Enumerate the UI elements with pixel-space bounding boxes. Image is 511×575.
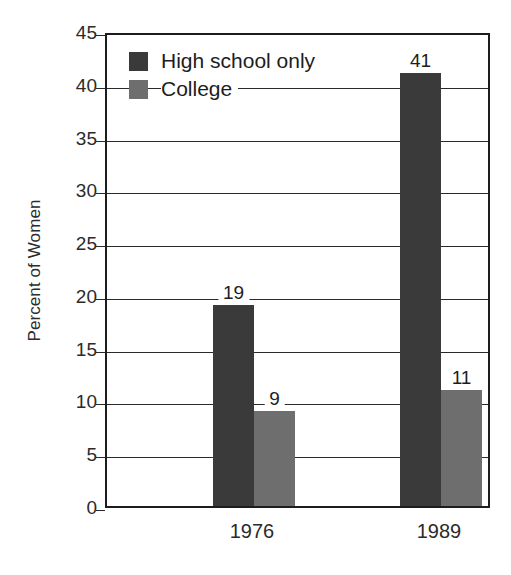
bar-value-label: 9 bbox=[264, 389, 285, 409]
bars-layer: 1994111 bbox=[107, 35, 488, 506]
chart-legend: High school onlyCollege bbox=[129, 47, 321, 103]
y-axis-tick-label: 20 bbox=[45, 286, 105, 308]
x-axis-tick-label: 1976 bbox=[230, 520, 275, 543]
y-axis-tick-mark bbox=[96, 352, 105, 353]
legend-swatch-icon bbox=[129, 80, 148, 99]
y-axis-tick-mark bbox=[96, 299, 105, 300]
y-axis-tick-label: 40 bbox=[45, 75, 105, 97]
y-axis-tick-label: 30 bbox=[45, 180, 105, 202]
y-axis-tick-mark bbox=[96, 88, 105, 89]
y-axis-tick-labels: 051015202530354045 bbox=[45, 33, 105, 508]
y-axis-tick-label: 45 bbox=[45, 22, 105, 44]
bar-value-label: 11 bbox=[447, 368, 477, 388]
y-axis-tick-label: 0 bbox=[45, 497, 105, 519]
y-axis-tick-mark bbox=[96, 35, 105, 36]
legend-label: High school only bbox=[161, 49, 321, 73]
bar bbox=[441, 390, 482, 506]
y-axis-tick-mark bbox=[96, 193, 105, 194]
y-axis-tick-label: 35 bbox=[45, 128, 105, 150]
legend-item: High school only bbox=[129, 47, 321, 75]
bar bbox=[400, 73, 441, 506]
legend-swatch-icon bbox=[129, 52, 148, 71]
y-axis-tick-mark bbox=[96, 510, 105, 511]
y-axis-tick-mark bbox=[96, 404, 105, 405]
y-axis-tick-label: 5 bbox=[45, 444, 105, 466]
legend-label: College bbox=[161, 77, 238, 101]
x-axis-tick-labels: 19761989 bbox=[105, 520, 490, 560]
bar bbox=[254, 411, 295, 506]
y-axis-tick-label: 10 bbox=[45, 391, 105, 413]
bar-value-label: 19 bbox=[218, 283, 249, 303]
y-axis-tick-mark bbox=[96, 246, 105, 247]
y-axis-tick-label: 25 bbox=[45, 233, 105, 255]
bar-chart-figure: Percent of Women 051015202530354045 1994… bbox=[0, 0, 511, 575]
y-axis-tick-mark bbox=[96, 457, 105, 458]
legend-item: College bbox=[129, 75, 321, 103]
y-axis-tick-mark bbox=[96, 141, 105, 142]
x-axis-tick-label: 1989 bbox=[417, 520, 462, 543]
y-axis-tick-label: 15 bbox=[45, 339, 105, 361]
bar-value-label: 41 bbox=[405, 51, 436, 71]
plot-area: 1994111 High school onlyCollege bbox=[105, 33, 490, 508]
bar bbox=[213, 305, 254, 506]
